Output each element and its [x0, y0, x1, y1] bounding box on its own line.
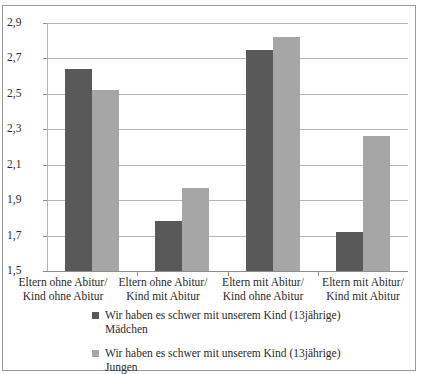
bar	[336, 232, 363, 271]
y-axis-tick-label: 1,9	[7, 194, 41, 206]
x-axis-category-label: Eltern mit Abitur/Kind mit Abitur	[313, 276, 413, 306]
bar	[246, 50, 273, 271]
bar-chart-figure: 2,92,72,52,32,11,91,71,5 Eltern ohne Abi…	[2, 5, 416, 371]
y-axis-tick-label: 2,3	[7, 123, 41, 135]
bars-layer	[47, 23, 408, 271]
legend-swatch-icon	[92, 350, 99, 357]
x-axis-category-label: Eltern mit Abitur/Kind ohne Abitur	[213, 276, 313, 306]
bar	[273, 37, 300, 271]
x-axis-category-label: Eltern ohne Abitur/Kind mit Abitur	[113, 276, 213, 306]
y-axis-tick-label: 2,7	[7, 52, 41, 64]
legend-label: Wir haben es schwer mit unserem Kind (13…	[105, 309, 341, 321]
bar	[363, 136, 390, 271]
bar	[155, 221, 182, 271]
legend-label-line2: Jungen	[105, 361, 381, 374]
legend-swatch-icon	[92, 312, 99, 319]
x-axis-category-labels: Eltern ohne Abitur/Kind ohne AbiturElter…	[13, 276, 413, 306]
y-axis-tick-label: 1,7	[7, 230, 41, 242]
legend-entry[interactable]: Wir haben es schwer mit unserem Kind (13…	[91, 347, 381, 374]
legend-label: Wir haben es schwer mit unserem Kind (13…	[105, 347, 341, 359]
legend-label-line2: Mädchen	[105, 323, 381, 337]
y-axis-tick-label: 1,5	[7, 265, 41, 277]
chart-legend: Wir haben es schwer mit unserem Kind (13…	[91, 309, 381, 374]
x-axis-category-label: Eltern ohne Abitur/Kind ohne Abitur	[13, 276, 113, 306]
bar	[65, 69, 92, 271]
y-axis-tick-label: 2,9	[7, 17, 41, 29]
plot-area: 2,92,72,52,32,11,91,71,5	[47, 23, 408, 271]
y-axis-tick-label: 2,1	[7, 159, 41, 171]
bar	[92, 90, 119, 271]
y-axis-tick-label: 2,5	[7, 88, 41, 100]
bar	[182, 188, 209, 271]
legend-entry[interactable]: Wir haben es schwer mit unserem Kind (13…	[91, 309, 381, 336]
